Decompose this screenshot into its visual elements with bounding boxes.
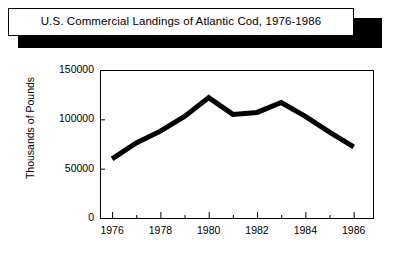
title-box: U.S. Commercial Landings of Atlantic Cod… <box>8 8 354 36</box>
chart-container: Thousands of Pounds 050000100000150000 1… <box>0 52 400 259</box>
page-title: U.S. Commercial Landings of Atlantic Cod… <box>41 16 322 28</box>
title-banner: U.S. Commercial Landings of Atlantic Cod… <box>8 8 382 48</box>
data-series-line <box>112 98 354 159</box>
plot-frame <box>101 71 374 219</box>
plot-svg <box>0 52 400 259</box>
